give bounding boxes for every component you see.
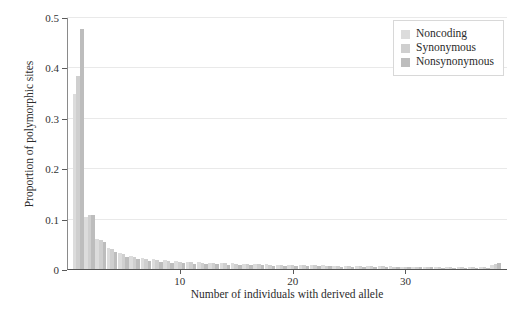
y-tick-mark	[62, 119, 67, 120]
x-tick-mark	[405, 270, 406, 274]
legend-item: Synonymous	[401, 41, 494, 55]
x-tick-label: 20	[287, 276, 298, 287]
legend-swatch-icon	[401, 30, 410, 39]
figure-canvas: Proportion of polymorphic sites 00.10.20…	[0, 0, 532, 311]
legend-swatch-icon	[401, 58, 410, 67]
x-tick-mark	[293, 270, 294, 274]
legend: NoncodingSynonymousNonsynonymous	[393, 20, 504, 76]
legend-item-label: Synonymous	[416, 42, 476, 54]
legend-item-label: Nonsynonymous	[416, 56, 494, 68]
y-tick-label: 0.5	[45, 13, 59, 24]
legend-item: Noncoding	[401, 27, 494, 41]
y-tick-mark	[62, 270, 67, 271]
y-axis-title: Proportion of polymorphic sites	[23, 29, 35, 239]
y-tick-mark	[62, 220, 67, 221]
x-tick-label: 10	[174, 276, 185, 287]
y-tick-mark	[62, 68, 67, 69]
x-tick-label: 30	[400, 276, 411, 287]
legend-swatch-icon	[401, 44, 410, 53]
y-tick-label: 0.1	[45, 214, 59, 225]
legend-item: Nonsynonymous	[401, 55, 494, 69]
y-tick-label: 0	[54, 265, 60, 276]
y-tick-mark	[62, 169, 67, 170]
y-tick-label: 0.4	[45, 63, 59, 74]
y-tick-label: 0.2	[45, 164, 59, 175]
y-tick-label: 0.3	[45, 113, 59, 124]
legend-item-label: Noncoding	[416, 28, 467, 40]
x-axis-title: Number of individuals with derived allel…	[67, 288, 507, 300]
x-tick-mark	[180, 270, 181, 274]
y-tick-mark	[62, 18, 67, 19]
